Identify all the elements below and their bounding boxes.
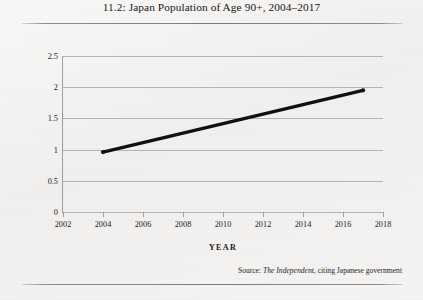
x-tick-label-2016: 2016: [335, 220, 352, 229]
footer-divider-rule: [22, 284, 403, 285]
x-tick-label-2004: 2004: [95, 220, 112, 229]
data-series-line: [63, 56, 383, 213]
data-point-2017: [361, 88, 365, 92]
x-tick-label-2006: 2006: [135, 220, 152, 229]
x-tick-label-2010: 2010: [215, 220, 232, 229]
source-publication: The Independent: [263, 266, 314, 275]
source-note: Source: The Independent, citing Japanese…: [238, 266, 402, 275]
y-tick-label-1.5: 1.5: [48, 114, 58, 123]
y-tick-label-0: 0: [54, 208, 58, 217]
y-tick-label-0.5: 0.5: [48, 176, 58, 185]
plot-area: 00.511.522.5 200220042006200820102012201…: [63, 56, 383, 212]
source-prefix: Source:: [238, 266, 263, 275]
x-tick-label-2012: 2012: [255, 220, 272, 229]
title-divider-rule: [22, 23, 403, 24]
x-tick-label-2014: 2014: [295, 220, 312, 229]
x-tick-label-2002: 2002: [55, 220, 72, 229]
x-tick-label-2008: 2008: [175, 220, 192, 229]
x-tick-label-2018: 2018: [375, 220, 392, 229]
figure-title: 11.2: Japan Population of Age 90+, 2004–…: [0, 1, 423, 13]
figure-container: 11.2: Japan Population of Age 90+, 2004–…: [0, 0, 423, 300]
data-point-2004: [101, 150, 105, 154]
source-suffix: , citing Japanese government: [314, 266, 402, 275]
y-tick-label-2: 2: [54, 83, 58, 92]
x-axis-title: YEAR: [63, 243, 383, 252]
y-tick-label-1: 1: [54, 145, 58, 154]
y-tick-label-2.5: 2.5: [48, 52, 58, 61]
series-polyline: [103, 90, 363, 152]
x-tick-2018: [383, 212, 384, 217]
